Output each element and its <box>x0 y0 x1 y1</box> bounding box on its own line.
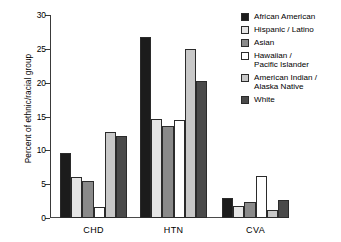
legend-label: African American <box>254 12 315 21</box>
bar <box>71 177 82 218</box>
x-axis-category-label: CHD <box>60 225 127 235</box>
plot-area: 051015202530 CHDHTNCVA <box>50 15 228 218</box>
legend-swatch-icon <box>241 52 249 60</box>
bar <box>140 37 151 218</box>
y-axis-label: Percent of ethnic/racial group <box>24 19 33 199</box>
y-tick-label: 0 <box>41 213 46 223</box>
bar <box>82 181 93 218</box>
bar <box>244 202 255 218</box>
bar <box>151 119 162 218</box>
bar <box>222 198 233 218</box>
legend-label: American Indian / Alaska Native <box>254 73 317 92</box>
bar <box>105 132 116 218</box>
legend-swatch-icon <box>241 39 249 47</box>
y-tick-label: 20 <box>37 78 46 88</box>
y-tick-label: 25 <box>37 44 46 54</box>
legend-label: Hispanic / Latino <box>254 25 314 34</box>
bar <box>116 136 127 218</box>
legend-swatch-icon <box>241 26 249 34</box>
legend-swatch-icon <box>241 13 249 21</box>
y-axis-line <box>50 15 51 218</box>
bar <box>94 207 105 219</box>
legend-label: White <box>254 95 275 104</box>
legend-swatch-icon <box>241 96 249 104</box>
bar <box>162 126 173 218</box>
x-axis-category-label: CVA <box>222 225 289 235</box>
bar <box>278 200 289 218</box>
bar <box>185 49 196 218</box>
bar <box>267 210 278 218</box>
legend-label: Hawaiian / Pacific Islander <box>254 51 309 70</box>
legend-item: African American <box>241 12 341 21</box>
bar <box>256 176 267 218</box>
x-axis-category-label: HTN <box>140 225 207 235</box>
legend-label: Asian <box>254 38 274 47</box>
bar <box>174 120 185 218</box>
y-tick-label: 10 <box>37 145 46 155</box>
legend-item: Hispanic / Latino <box>241 25 341 34</box>
bar <box>60 153 71 218</box>
y-tick-label: 5 <box>41 179 46 189</box>
bar-chart: Percent of ethnic/racial group 051015202… <box>0 0 341 242</box>
legend-item: Asian <box>241 38 341 47</box>
legend: African AmericanHispanic / LatinoAsianHa… <box>241 12 341 108</box>
bar-group: HTN <box>140 15 207 218</box>
y-tick-label: 30 <box>37 10 46 20</box>
bar <box>233 206 244 218</box>
y-tick-label: 15 <box>37 112 46 122</box>
legend-item: Hawaiian / Pacific Islander <box>241 51 341 70</box>
bar <box>196 81 207 218</box>
bar-group: CHD <box>60 15 127 218</box>
legend-item: American Indian / Alaska Native <box>241 73 341 92</box>
legend-item: White <box>241 95 341 104</box>
legend-swatch-icon <box>241 74 249 82</box>
